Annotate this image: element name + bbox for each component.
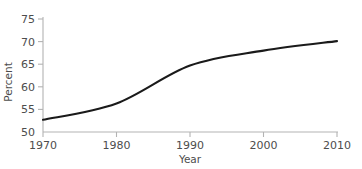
x-axis-tick-label: 2010: [323, 139, 351, 152]
y-axis-tick-label: 55: [21, 103, 35, 116]
x-axis-tick-label: 1990: [176, 139, 204, 152]
x-axis-title: Year: [178, 153, 202, 165]
y-axis-tick-label: 50: [21, 126, 35, 139]
y-axis-tick-label: 75: [21, 13, 35, 26]
y-axis-tick-label: 70: [21, 36, 35, 49]
line-chart: 505560657075 19701980199020002010 Percen…: [0, 0, 362, 169]
y-axis-tick-label: 60: [21, 81, 35, 94]
chart-canvas: 505560657075 19701980199020002010 Percen…: [0, 0, 362, 169]
y-axis-tick-label: 65: [21, 58, 35, 71]
y-axis-title: Percent: [2, 62, 14, 102]
x-axis-tick-label: 1980: [103, 139, 131, 152]
x-axis-tick-label: 2000: [250, 139, 278, 152]
x-axis-tick-label: 1970: [29, 139, 57, 152]
